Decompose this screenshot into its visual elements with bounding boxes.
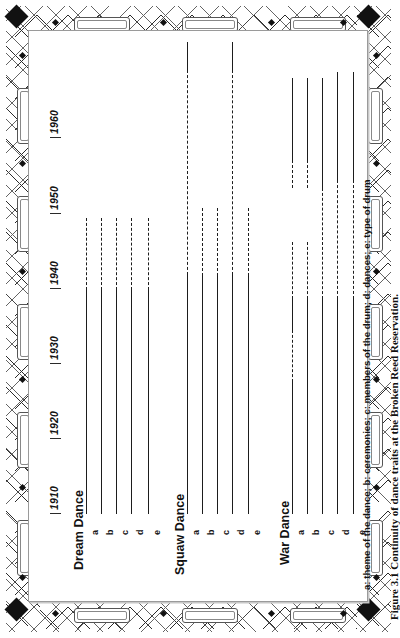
axis-label-1950: 1950 — [48, 186, 60, 210]
trait-line-squaw-a-solid-upper — [187, 42, 188, 72]
trait-line-war-b-dashed — [307, 242, 308, 299]
trait-line-war-c-solid-top — [322, 78, 323, 189]
axis-label-1940: 1940 — [48, 261, 60, 285]
chart-area: 1960 1950 1940 1930 1920 1910 Dream Danc… — [28, 30, 366, 600]
trait-line-dream-a-solid — [86, 289, 87, 514]
row-label-squaw-e: e — [252, 530, 262, 535]
trait-line-squaw-b-solid — [202, 274, 203, 514]
trait-line-war-e-solid-base — [353, 298, 354, 514]
row-label-dream-e: e — [152, 530, 162, 535]
axis-tick-1950 — [50, 213, 61, 214]
axis-tick-1960 — [50, 137, 61, 138]
row-label-dream-c: c — [120, 530, 130, 535]
row-label-dream-d: d — [135, 530, 145, 536]
row-label-war-b: b — [311, 530, 321, 536]
trait-line-war-b-solid-base — [307, 298, 308, 514]
border-capsule-icon — [74, 608, 130, 623]
trait-line-dream-b-solid — [101, 289, 102, 514]
group-label-dream-dance: Dream Dance — [72, 490, 86, 570]
trait-line-war-a-dashed-upper — [292, 242, 293, 299]
trait-line-squaw-b-dashed — [202, 208, 203, 276]
trait-line-dream-a-dashed — [86, 218, 87, 290]
trait-line-squaw-c-solid — [217, 274, 218, 514]
trait-line-war-a-dashed-top — [292, 160, 293, 188]
axis-tick-1940 — [50, 288, 61, 289]
trait-line-war-b-dashed-top — [307, 160, 308, 188]
trait-line-squaw-e-dashed — [248, 208, 249, 276]
trait-line-dream-e-solid — [148, 289, 149, 514]
trait-line-war-a-solid-base — [292, 380, 293, 514]
row-label-squaw-b: b — [206, 530, 216, 536]
trait-line-dream-d-dashed — [131, 218, 132, 290]
axis-tick-1920 — [50, 438, 61, 439]
trait-line-squaw-a-solid-lower — [187, 274, 188, 514]
trait-line-squaw-d-solid-upper — [232, 42, 233, 72]
border-capsule-icon — [182, 608, 238, 623]
border-capsule-icon — [290, 608, 346, 623]
trait-line-war-b-solid-top — [307, 78, 308, 162]
axis-label-1960: 1960 — [48, 110, 60, 134]
axis-label-1910: 1910 — [48, 486, 60, 510]
trait-line-war-d-solid-top — [337, 72, 338, 181]
axis-tick-1910 — [50, 513, 61, 514]
axis-tick-1930 — [50, 363, 61, 364]
trait-line-dream-c-solid — [116, 289, 117, 514]
row-label-squaw-c: c — [221, 530, 231, 535]
trait-line-dream-b-dashed — [101, 218, 102, 290]
trait-line-war-c-solid-base — [322, 298, 323, 514]
row-label-squaw-a: a — [191, 530, 201, 535]
trait-line-war-d-solid-base — [337, 298, 338, 514]
trait-line-dream-e-dashed — [148, 218, 149, 290]
group-label-squaw-dance: Squaw Dance — [173, 494, 187, 575]
axis-label-1920: 1920 — [48, 411, 60, 435]
trait-line-war-e-dashed — [353, 180, 354, 299]
trait-line-squaw-d-solid-lower — [232, 274, 233, 514]
trait-line-dream-d-solid — [131, 289, 132, 514]
trait-line-war-c-dashed — [322, 188, 323, 299]
trait-line-war-a-dashed-mid — [292, 330, 293, 382]
row-label-war-a: a — [296, 530, 306, 535]
trait-line-war-a-solid-mid — [292, 298, 293, 331]
row-label-dream-b: b — [105, 530, 115, 536]
trait-line-dream-c-dashed — [116, 218, 117, 290]
trait-line-squaw-a-dashed — [187, 70, 188, 275]
trait-line-squaw-d-dashed — [232, 70, 233, 275]
row-label-war-c: c — [326, 530, 336, 535]
trait-line-squaw-c-dashed — [217, 208, 218, 276]
trait-line-war-a-solid-top — [292, 78, 293, 162]
axis-label-1930: 1930 — [48, 336, 60, 360]
trait-line-war-e-solid-top — [353, 72, 354, 181]
legend-text: a: theme of the dance; b: ceremonies; c:… — [361, 180, 372, 590]
row-label-squaw-d: d — [236, 530, 246, 536]
group-label-war-dance: War Dance — [278, 501, 292, 565]
border-capsule-icon — [368, 88, 383, 144]
figure-caption: Figure 3.1 Continuity of dance traits at… — [388, 294, 400, 620]
row-label-war-d: d — [341, 530, 351, 536]
row-label-dream-a: a — [90, 530, 100, 535]
trait-line-squaw-e-solid — [248, 274, 249, 514]
trait-line-war-d-dashed — [337, 180, 338, 299]
